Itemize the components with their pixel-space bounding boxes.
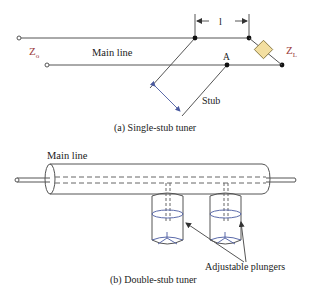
caption-a: (a) Single-stub tuner: [114, 122, 197, 134]
stub-junction-dot: [193, 36, 198, 41]
caption-b: (b) Double-stub tuner: [110, 274, 197, 286]
center-conductor-right: [266, 178, 296, 182]
stub-conductor-lower: [182, 65, 227, 116]
plunger-2: [210, 210, 241, 218]
stub-length-dimension: [155, 86, 180, 111]
plungers-label: Adjustable plungers: [205, 261, 285, 272]
plunger-1: [152, 210, 183, 218]
point-a-label: A: [223, 52, 230, 62]
stub-tuner-diagram: Zo ZL Main line l A Stub (a) Single-stub…: [0, 0, 315, 290]
load-impedance: [254, 40, 272, 58]
stub-label: Stub: [202, 95, 220, 106]
single-stub-tuner: Zo ZL Main line l A Stub (a) Single-stub…: [17, 14, 297, 134]
double-stub-tuner: Main line Adjustable plungers (b) Double…: [15, 150, 296, 286]
main-line-label-a: Main line: [92, 47, 133, 58]
center-conductor-end-left: [15, 178, 19, 182]
main-line-end-ellipse: [45, 164, 55, 194]
main-line-label-b: Main line: [47, 150, 88, 161]
z0-label: Zo: [29, 45, 40, 60]
length-label: l: [219, 16, 222, 27]
point-a-dot: [225, 63, 230, 68]
stub-conductor-upper: [150, 38, 195, 88]
zl-label: ZL: [286, 44, 297, 59]
stub-1: [152, 183, 183, 244]
terminal-top: [17, 36, 21, 40]
main-line-outer-conductor: [50, 164, 270, 194]
plunger-pointer-2: [241, 222, 246, 262]
terminal-bottom: [45, 63, 49, 67]
stub-2: [210, 183, 241, 244]
